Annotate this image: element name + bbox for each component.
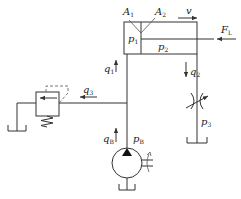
hydraulic-pump <box>112 148 153 190</box>
label-q2: q2 <box>190 66 200 78</box>
relief-valve <box>17 86 68 131</box>
spring-icon <box>41 116 53 127</box>
label-pB: pB <box>133 133 144 145</box>
label-p3: p3 <box>201 116 211 128</box>
label-q1: q1 <box>104 63 114 75</box>
label-q3: q3 <box>83 84 93 96</box>
label-p1: p1 <box>128 33 138 45</box>
label-qB: qB <box>103 133 114 145</box>
hydraulic-cylinder <box>124 18 214 54</box>
hydraulic-circuit-diagram: A1 A2 p1 p2 v FL q1 q3 q2 p3 <box>0 0 241 199</box>
label-load: FL <box>220 24 232 36</box>
label-A1: A1 <box>122 6 134 18</box>
pump-direction-triangle-icon <box>122 148 132 156</box>
label-p2: p2 <box>158 41 168 53</box>
label-velocity: v <box>186 5 192 16</box>
label-A2: A2 <box>154 6 166 18</box>
rotation-arrow-icon <box>147 154 149 172</box>
